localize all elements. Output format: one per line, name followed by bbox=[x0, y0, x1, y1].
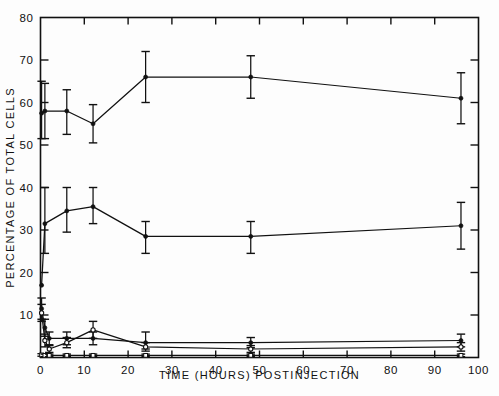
y-axis-title: PERCENTAGE OF TOTAL CELLS bbox=[4, 87, 16, 288]
data-point bbox=[65, 341, 69, 345]
data-point bbox=[459, 353, 463, 357]
x-axis-title: TIME (HOURS) POSTINJECTION bbox=[159, 369, 360, 381]
data-point bbox=[459, 224, 463, 228]
data-point bbox=[459, 96, 463, 100]
data-point bbox=[91, 353, 95, 357]
data-point bbox=[43, 109, 47, 113]
data-point bbox=[91, 205, 95, 209]
y-tick-label: 10 bbox=[20, 309, 34, 321]
x-tick-label: 80 bbox=[384, 364, 398, 376]
y-tick-label: 40 bbox=[20, 182, 34, 194]
series-4 bbox=[37, 304, 465, 352]
figure-container: 01020304050607080901001020304050607080TI… bbox=[0, 0, 499, 396]
y-tick-label: 30 bbox=[20, 224, 34, 236]
x-tick-label: 10 bbox=[77, 364, 91, 376]
data-point bbox=[47, 353, 51, 357]
data-point bbox=[459, 339, 463, 343]
x-tick-label: 100 bbox=[468, 364, 489, 376]
data-point bbox=[40, 283, 44, 287]
y-tick-label: 80 bbox=[20, 12, 34, 24]
data-point bbox=[39, 311, 43, 315]
data-point bbox=[144, 345, 148, 349]
series-2 bbox=[40, 188, 466, 288]
data-point bbox=[249, 353, 253, 357]
data-point bbox=[459, 345, 463, 349]
y-tick-label: 70 bbox=[20, 54, 34, 66]
data-point bbox=[43, 222, 47, 226]
data-point bbox=[249, 75, 253, 79]
data-point bbox=[65, 353, 69, 357]
series-1 bbox=[37, 52, 465, 143]
data-point bbox=[91, 328, 95, 332]
data-point bbox=[65, 209, 69, 213]
data-point bbox=[249, 347, 253, 351]
data-point bbox=[47, 336, 51, 340]
series-3 bbox=[37, 298, 465, 349]
x-tick-label: 90 bbox=[428, 364, 442, 376]
data-point bbox=[144, 75, 148, 79]
plot-frame bbox=[41, 18, 479, 358]
data-point bbox=[249, 234, 253, 238]
line-chart: 01020304050607080901001020304050607080TI… bbox=[0, 0, 499, 396]
data-point bbox=[43, 338, 47, 342]
y-tick-label: 60 bbox=[20, 97, 34, 109]
series-5 bbox=[37, 353, 465, 357]
data-point bbox=[65, 109, 69, 113]
x-tick-label: 0 bbox=[37, 364, 44, 376]
data-point bbox=[47, 347, 51, 351]
data-point bbox=[144, 353, 148, 357]
data-point bbox=[249, 341, 253, 345]
data-point bbox=[91, 122, 95, 126]
y-tick-label: 20 bbox=[20, 267, 34, 279]
y-tick-label: 50 bbox=[20, 139, 34, 151]
x-tick-label: 20 bbox=[121, 364, 135, 376]
data-point bbox=[144, 234, 148, 238]
